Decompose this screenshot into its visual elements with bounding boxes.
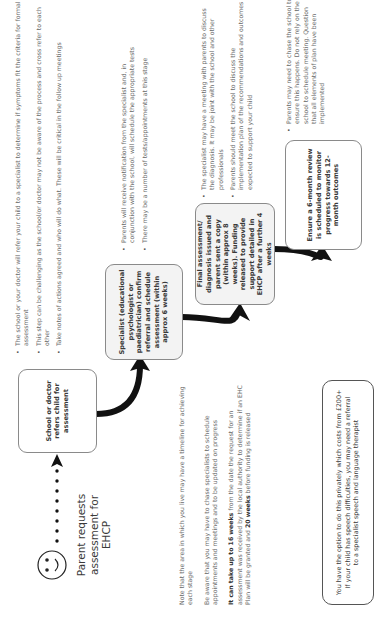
bullet-item: Take notes of actions agreed and who wil… <box>55 1 63 346</box>
parent-request-label: Parent requests assessment for EHCP <box>75 485 113 585</box>
bullet-list-final: The specialist may have a meeting with p… <box>200 0 258 199</box>
bullet-list-school: The school or your doctor will refer you… <box>14 1 68 355</box>
note-chase-specialists: Be aware that you may have to chase spec… <box>203 380 220 605</box>
step-box-specialist-confirm: Specialist (educational psychologist or … <box>105 264 183 360</box>
bullet-item: This step can be challenging as the scho… <box>35 1 52 346</box>
ehcp-process-diagram: Parent requests assessment for EHCP Scho… <box>0 0 379 617</box>
step-text: Final assessment/ diagnosis issued and p… <box>196 208 273 300</box>
bullet-item: Parents should meet the school to discus… <box>229 0 254 190</box>
bullet-item: Parents will receive notification from t… <box>120 28 137 243</box>
dotted-arrow-icon <box>51 454 63 543</box>
private-option-box: You have the option to do this privately… <box>322 380 374 605</box>
bullet-list-specialist: Parents will receive notification from t… <box>120 28 153 252</box>
note-bold-16-weeks: It can take up to 16 weeks <box>227 513 234 605</box>
bullet-item: The specialist may have a meeting with p… <box>200 0 225 190</box>
step-box-final-assessment: Final assessment/ diagnosis issued and p… <box>195 203 275 305</box>
bullet-list-review: Parents may need to chase the school to … <box>285 0 331 133</box>
bullet-item: There may be a number of tests/appointme… <box>141 28 149 243</box>
bullet-item: The school or your doctor will refer you… <box>14 1 31 346</box>
timeline-notes: Note that the area in which you live may… <box>178 380 261 605</box>
step-box-six-month-review: Ensure a 6-month review is scheduled to … <box>285 140 362 250</box>
private-option-line-2: If your child has speech difficulties, y… <box>344 387 353 598</box>
step-text: Specialist (educational psychologist or … <box>118 269 169 355</box>
private-option-line-1: You have the option to do this privately… <box>335 387 344 598</box>
note-area-timeline: Note that the area in which you live may… <box>178 380 195 605</box>
bullet-item: Parents may need to chase the school to … <box>285 0 327 124</box>
private-option-line-3: to a specialist speech and language ther… <box>352 387 361 598</box>
note-bold-20-weeks: 20 weeks <box>244 495 251 528</box>
note-text: before funding is released <box>244 413 251 496</box>
smiley-face-icon <box>38 551 66 579</box>
curved-arrow-1 <box>96 365 140 414</box>
step-text: Ensure a 6-month review is scheduled to … <box>306 145 340 245</box>
step-box-school-referral: School or doctor refers child for assess… <box>18 369 97 453</box>
note-16-weeks: It can take up to 16 weeks from the date… <box>227 380 252 605</box>
step-text: School or doctor refers child for assess… <box>45 374 71 448</box>
